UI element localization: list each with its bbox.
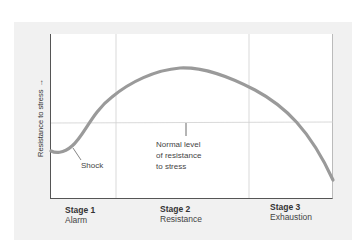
- normal-level-annotation: Normal level of resistance to stress: [156, 139, 201, 172]
- normal-level-line-3: to stress: [156, 161, 201, 172]
- y-axis-label: Resistance to stress→: [36, 79, 45, 157]
- stage-3-number: Stage 3: [270, 202, 312, 212]
- normal-level-line-1: Normal level: [156, 139, 201, 150]
- arrow-right-icon: →: [36, 79, 45, 87]
- stage-1-number: Stage 1: [65, 205, 95, 215]
- stage-2-number: Stage 2: [160, 204, 202, 214]
- stage-3-label: Stage 3 Exhaustion: [270, 202, 312, 222]
- stage-2-name: Resistance: [160, 214, 202, 224]
- stage-1-label: Stage 1 Alarm: [65, 205, 95, 225]
- shock-annotation: Shock: [81, 160, 103, 171]
- normal-level-line: [51, 122, 333, 123]
- stage-1-name: Alarm: [65, 215, 95, 225]
- stage-2-label: Stage 2 Resistance: [160, 204, 202, 224]
- stage-3-name: Exhaustion: [270, 212, 312, 222]
- y-axis-label-text: Resistance to stress: [36, 89, 45, 157]
- normal-level-line-2: of resistance: [156, 150, 201, 161]
- shock-leader: [73, 148, 81, 160]
